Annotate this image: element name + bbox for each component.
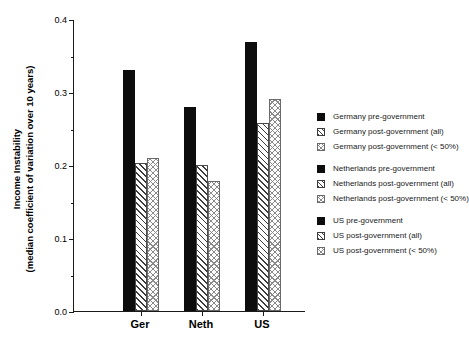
legend-swatch-diagonal-hatch-icon	[317, 180, 325, 188]
legend-label: Netherlands pre-government	[333, 164, 435, 173]
legend-label: Germany post-government (< 50%)	[333, 142, 459, 151]
legend-label: Netherlands post-government (all)	[333, 179, 454, 188]
bar-ger-cross-hatch	[147, 158, 159, 311]
legend-item: Netherlands post-government (all)	[317, 177, 459, 190]
bar-us-cross-hatch	[269, 99, 281, 311]
bar-us-diagonal-hatch	[257, 123, 269, 311]
legend-block-2: US pre-governmentUS post-government (all…	[317, 214, 459, 257]
y-tick-minor	[71, 130, 74, 131]
legend-item: Netherlands pre-government	[317, 162, 459, 175]
x-axis-label-us: US	[254, 318, 269, 330]
y-axis-title: Income Instability (median coefficient o…	[0, 0, 46, 338]
legend-swatch-solid-icon	[317, 113, 325, 121]
x-tick	[141, 311, 142, 316]
legend-label: US post-government (< 50%)	[333, 246, 437, 255]
bar-neth-solid	[184, 107, 196, 311]
bar-us-solid	[245, 42, 257, 311]
y-tick-minor	[71, 203, 74, 204]
y-tick-label: 0.3	[54, 88, 67, 98]
bar-neth-diagonal-hatch	[196, 165, 208, 311]
y-tick-major	[69, 312, 74, 313]
y-tick-label: 0.2	[54, 161, 67, 171]
legend-swatch-diagonal-hatch-icon	[317, 128, 325, 136]
y-tick-major	[69, 20, 74, 21]
legend-item: Germany post-government (< 50%)	[317, 140, 459, 153]
bar-neth-cross-hatch	[208, 181, 220, 311]
x-axis-label-neth: Neth	[189, 318, 213, 330]
legend-item: Germany pre-government	[317, 110, 459, 123]
chart-legend: Germany pre-governmentGermany post-gover…	[317, 110, 459, 266]
legend-label: Germany pre-government	[333, 112, 425, 121]
x-axis-label-ger: Ger	[131, 318, 150, 330]
legend-item: US post-government (all)	[317, 229, 459, 242]
bar-ger-solid	[123, 70, 135, 311]
legend-swatch-solid-icon	[317, 217, 325, 225]
y-tick-major	[69, 166, 74, 167]
y-axis-title-line2: (median coefficient of variation over 10…	[23, 66, 36, 273]
y-tick-minor	[71, 57, 74, 58]
y-tick-major	[69, 93, 74, 94]
y-tick-label: 0.4	[54, 15, 67, 25]
legend-block-1: Netherlands pre-governmentNetherlands po…	[317, 162, 459, 205]
legend-swatch-diagonal-hatch-icon	[317, 232, 325, 240]
legend-swatch-cross-hatch-icon	[317, 247, 325, 255]
y-axis-title-line1: Income Instability	[11, 66, 24, 273]
y-tick-label: 0.1	[54, 234, 67, 244]
x-tick	[202, 311, 203, 316]
y-tick-minor	[71, 276, 74, 277]
legend-label: Germany post-government (all)	[333, 127, 444, 136]
legend-swatch-solid-icon	[317, 165, 325, 173]
plot-area: 0.00.10.20.30.4	[73, 20, 305, 312]
x-tick	[263, 311, 264, 316]
y-tick-major	[69, 239, 74, 240]
legend-swatch-cross-hatch-icon	[317, 143, 325, 151]
bar-ger-diagonal-hatch	[135, 163, 147, 311]
legend-label: Netherlands post-government (< 50%)	[333, 194, 469, 203]
legend-label: US post-government (all)	[333, 231, 422, 240]
legend-item: Germany post-government (all)	[317, 125, 459, 138]
legend-item: Netherlands post-government (< 50%)	[317, 192, 459, 205]
legend-label: US pre-government	[333, 216, 403, 225]
legend-item: US post-government (< 50%)	[317, 244, 459, 257]
y-tick-label: 0.0	[54, 307, 67, 317]
legend-swatch-cross-hatch-icon	[317, 195, 325, 203]
legend-block-0: Germany pre-governmentGermany post-gover…	[317, 110, 459, 153]
legend-item: US pre-government	[317, 214, 459, 227]
